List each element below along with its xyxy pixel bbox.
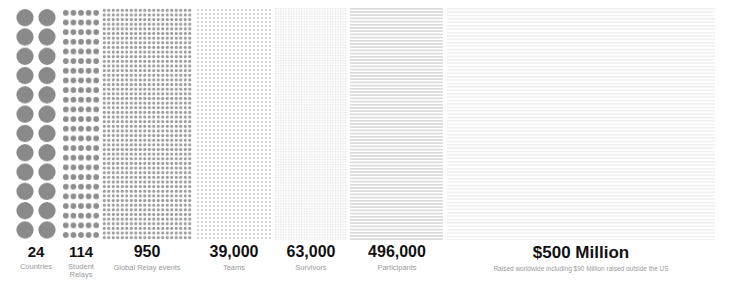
value-survivors: 63,000 [273, 244, 349, 261]
value-global-relay-events: 950 [102, 244, 192, 261]
label-survivors: 63,000 Survivors [273, 244, 349, 272]
caption-raised: Raised worldwide including $90 Million r… [447, 265, 715, 272]
pattern-block-student-relays [62, 8, 100, 240]
value-raised: $500 Million [447, 244, 715, 262]
dot-grid-global-relay-events [102, 8, 192, 240]
caption-student-relays: Student Relays [63, 263, 99, 280]
label-teams: 39,000 Teams [194, 244, 274, 272]
pattern-block-teams [196, 8, 272, 240]
dot-grid-participants [350, 8, 443, 240]
caption-survivors: Survivors [273, 264, 349, 273]
labels-row: 24 Countries 114 Student Relays 950 Glob… [0, 240, 750, 299]
pattern-blocks-row [0, 0, 750, 240]
pattern-block-participants [350, 8, 443, 240]
unit-chart-infographic: 24 Countries 114 Student Relays 950 Glob… [0, 0, 750, 299]
value-student-relays: 114 [54, 244, 108, 260]
pattern-block-survivors [275, 8, 347, 240]
pattern-block-countries [14, 8, 58, 240]
pattern-block-global-relay-events [102, 8, 192, 240]
label-raised: $500 Million Raised worldwide including … [447, 244, 715, 272]
label-student-relays: 114 Student Relays [54, 244, 108, 280]
caption-participants: Participants [350, 264, 444, 273]
caption-global-relay-events: Global Relay events [102, 264, 192, 273]
dot-grid-survivors [275, 8, 347, 240]
dot-grid-raised [447, 8, 715, 240]
dot-grid-teams [196, 8, 272, 240]
caption-teams: Teams [194, 264, 274, 273]
label-participants: 496,000 Participants [350, 244, 444, 272]
pattern-block-raised [447, 8, 715, 240]
dot-grid-countries [14, 8, 58, 240]
label-global-relay-events: 950 Global Relay events [102, 244, 192, 272]
value-teams: 39,000 [194, 244, 274, 261]
dot-grid-student-relays [62, 8, 100, 240]
value-participants: 496,000 [350, 244, 444, 261]
